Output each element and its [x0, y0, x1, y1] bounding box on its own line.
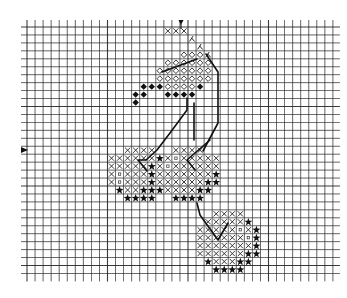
cross-stitch-icon — [117, 156, 122, 161]
cross-stitch-icon — [125, 179, 130, 184]
cross-stitch-icon — [238, 251, 243, 256]
open-diamond-icon — [157, 76, 163, 82]
cross-stitch-icon — [125, 187, 130, 192]
cross-stitch-icon — [214, 219, 219, 224]
open-diamond-icon — [173, 76, 179, 82]
small-square-icon — [247, 236, 249, 238]
star-icon — [244, 258, 252, 266]
cross-stitch-icon — [109, 156, 114, 161]
open-diamond-icon — [181, 68, 187, 74]
star-icon — [252, 242, 260, 250]
cross-stitch-icon — [173, 164, 178, 169]
star-icon — [252, 226, 260, 234]
filled-diamond-icon — [157, 83, 163, 89]
star-icon — [148, 162, 156, 170]
small-square-icon — [118, 181, 120, 183]
star-icon — [212, 170, 220, 178]
cross-stitch-icon — [125, 156, 130, 161]
cross-stitch-icon — [222, 211, 227, 216]
cross-stitch-icon — [189, 171, 194, 176]
cross-stitch-icon — [181, 156, 186, 161]
cross-stitch-icon — [214, 211, 219, 216]
filled-diamond-icon — [132, 99, 138, 105]
star-icon — [212, 266, 220, 274]
cross-stitch-icon — [197, 243, 202, 248]
open-diamond-icon — [205, 76, 211, 82]
cross-stitch-icon — [141, 179, 146, 184]
cross-stitch-icon — [206, 235, 211, 240]
open-diamond-icon — [173, 60, 179, 66]
open-diamond-icon — [189, 68, 195, 74]
half-stitch-icon — [190, 36, 195, 41]
star-icon — [228, 266, 236, 274]
cross-stitch-icon — [230, 243, 235, 248]
star-icon — [204, 178, 212, 186]
star-icon — [156, 186, 164, 194]
half-stitch-icon — [198, 44, 203, 49]
cross-stitch-icon — [214, 259, 219, 264]
cross-stitch-icon — [230, 219, 235, 224]
small-square-icon — [167, 165, 169, 167]
open-diamond-icon — [189, 76, 195, 82]
cross-stitch-icon — [181, 179, 186, 184]
open-diamond-icon — [165, 84, 171, 90]
star-icon — [196, 186, 204, 194]
cross-stitch-icon — [125, 164, 130, 169]
cross-stitch-icon — [109, 171, 114, 176]
cross-stitch-icon — [206, 171, 211, 176]
star-icon — [140, 186, 148, 194]
star-icon — [244, 250, 252, 258]
star-icon — [132, 194, 140, 202]
cross-stitch-icon — [197, 156, 202, 161]
cross-stitch-icon — [230, 235, 235, 240]
cross-stitch-icon — [133, 187, 138, 192]
cross-stitch-icon — [197, 179, 202, 184]
cross-stitch-icon — [157, 164, 162, 169]
cross-stitch-icon — [157, 171, 162, 176]
cross-stitch-icon — [230, 211, 235, 216]
star-icon — [220, 266, 228, 274]
cross-stitch-icon — [197, 227, 202, 232]
cross-stitch-icon — [206, 156, 211, 161]
stitch-grid — [21, 20, 340, 281]
cross-stitch-icon — [189, 148, 194, 153]
cross-stitch-icon — [206, 164, 211, 169]
open-diamond-icon — [197, 60, 203, 66]
star-icon — [204, 258, 212, 266]
star-icon — [148, 186, 156, 194]
stem-line — [203, 54, 218, 151]
cross-stitch-icon — [214, 243, 219, 248]
star-icon — [188, 194, 196, 202]
small-square-icon — [175, 157, 177, 159]
star-icon — [204, 186, 212, 194]
cross-stitch-icon — [214, 227, 219, 232]
cross-stitch-icon — [181, 28, 186, 33]
star-icon — [236, 266, 244, 274]
cross-stitch-icon — [214, 164, 219, 169]
cross-stitch-icon — [222, 243, 227, 248]
star-icon — [196, 194, 204, 202]
cross-stitch-icon — [173, 148, 178, 153]
open-diamond-icon — [205, 68, 211, 74]
cross-stitch-icon — [238, 235, 243, 240]
cross-stitch-icon — [173, 28, 178, 33]
star-icon — [148, 170, 156, 178]
filled-diamond-icon — [173, 91, 179, 97]
cross-stitch-icon — [125, 148, 130, 153]
cross-stitch-icon — [214, 156, 219, 161]
cross-stitch-icon — [197, 164, 202, 169]
star-icon — [244, 218, 252, 226]
cross-stitch-icon — [181, 148, 186, 153]
filled-diamond-icon — [132, 91, 138, 97]
open-diamond-icon — [173, 84, 179, 90]
open-diamond-icon — [173, 68, 179, 74]
filled-diamond-icon — [165, 91, 171, 97]
open-diamond-icon — [181, 76, 187, 82]
star-icon — [116, 186, 124, 194]
cross-stitch-icon — [133, 179, 138, 184]
cross-stitch-icon — [206, 243, 211, 248]
cross-stitch-icon — [189, 187, 194, 192]
cross-stitch-icon — [230, 259, 235, 264]
cross-stitch-icon — [165, 171, 170, 176]
filled-diamond-icon — [149, 83, 155, 89]
